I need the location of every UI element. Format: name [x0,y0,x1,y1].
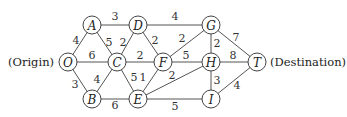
node-label: H [205,56,217,70]
edge-weight-d-f: 2 [152,34,159,47]
edge-weight-o-c: 6 [89,49,96,62]
node-d: D [129,16,147,34]
node-g: G [202,16,220,34]
edge-weight-g-h: 2 [214,37,221,50]
edge-weight-g-t: 7 [233,31,240,44]
node-label: G [206,19,216,33]
edge-weight-d-g: 4 [172,10,179,23]
node-e: E [129,90,147,108]
node-i: I [202,90,220,108]
origin-label: (Origin) [8,55,54,69]
node-t: T [248,53,266,71]
edge-weight-b-e: 6 [112,99,119,112]
node-label: T [253,56,262,70]
edge-weight-c-f: 2 [137,49,144,62]
node-label: A [87,19,97,33]
node-label: C [112,56,121,70]
node-a: A [83,16,101,34]
edge-weight-o-b: 3 [72,78,79,91]
edge-weight-b-c: 4 [94,73,101,86]
node-label: O [63,56,73,70]
node-label: E [133,93,143,107]
edge-weight-o-a: 4 [73,34,80,47]
node-f: F [154,53,172,71]
node-h: H [202,53,220,71]
edge-weight-f-h: 5 [183,49,190,62]
network-graph: 4633546225421252527834 OABCDEFGHIT (Orig… [0,0,347,117]
edge-weight-h-i: 3 [214,74,221,87]
node-c: C [108,53,126,71]
edge-weight-c-d: 2 [120,36,127,49]
edge-weight-c-e: 5 [131,71,138,84]
edge-weight-h-t: 8 [230,49,237,62]
edge-weight-f-g: 2 [179,32,186,45]
edge-weight-a-c: 5 [106,36,113,49]
node-label: I [208,93,214,107]
node-b: B [83,90,101,108]
destination-label: (Destination) [270,55,346,69]
node-o: O [59,53,77,71]
edge-weight-e-f: 1 [140,71,147,84]
edge-weight-i-t: 4 [234,79,241,92]
edge-weight-e-i: 5 [172,100,179,113]
node-label: F [158,56,168,70]
node-label: D [132,19,143,33]
edge-weight-e-h: 2 [169,69,176,82]
node-label: B [87,93,97,107]
edge-weight-a-d: 3 [112,10,119,23]
